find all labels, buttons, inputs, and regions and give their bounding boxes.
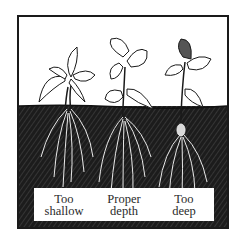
- label-too-shallow: Too shallow: [34, 193, 94, 217]
- label-line: shallow: [34, 205, 94, 217]
- label-line: depth: [94, 205, 154, 217]
- label-line: deep: [154, 205, 214, 217]
- planting-depth-illustration: Too shallow Proper depth Too deep: [0, 0, 242, 249]
- label-line: Too: [34, 193, 94, 205]
- label-too-deep: Too deep: [154, 193, 214, 217]
- label-box: Too shallow Proper depth Too deep: [34, 188, 214, 221]
- label-proper-depth: Proper depth: [94, 193, 154, 217]
- label-line: Proper: [94, 193, 154, 205]
- label-line: Too: [154, 193, 214, 205]
- illustration-frame: Too shallow Proper depth Too deep: [17, 15, 229, 229]
